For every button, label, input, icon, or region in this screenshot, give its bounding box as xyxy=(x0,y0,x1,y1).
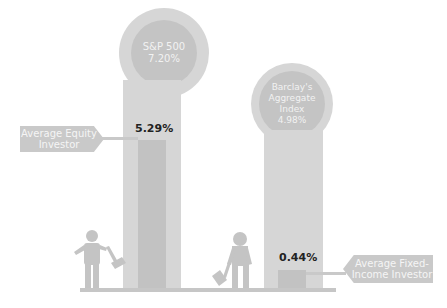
fixed-investor-bar xyxy=(278,270,306,290)
equity-investor-bar xyxy=(138,140,166,290)
equity-investor-value: 5.29% xyxy=(135,122,173,135)
tired-investor-icon xyxy=(208,230,258,290)
equity-investor-label-1: Average Equity xyxy=(20,128,98,139)
fixed-investor-label-2: Income Investor xyxy=(351,269,433,280)
standing-investor-icon xyxy=(70,228,130,290)
fixed-connector xyxy=(306,272,346,275)
barclay-bar xyxy=(264,130,323,290)
barclay-circle: Barclay's Aggregate Index 4.98% xyxy=(259,71,325,137)
barclay-label-2: Aggregate xyxy=(269,93,316,104)
sp500-circle: S&P 500 7.20% xyxy=(131,20,197,86)
barclay-value: 4.98% xyxy=(278,115,307,126)
sp500-value: 7.20% xyxy=(148,53,180,65)
equity-investor-label-2: Investor xyxy=(20,139,98,150)
barclay-label-1: Barclay's xyxy=(272,82,313,93)
fixed-investor-value: 0.44% xyxy=(279,251,317,264)
fixed-investor-callout: Average Fixed- Income Investor xyxy=(343,255,433,283)
sp500-label: S&P 500 xyxy=(143,41,185,53)
equity-connector xyxy=(100,137,138,140)
fixed-investor-label-1: Average Fixed- xyxy=(351,258,433,269)
equity-investor-callout: Average Equity Investor xyxy=(20,126,104,152)
barclay-label-3: Index xyxy=(280,104,305,115)
